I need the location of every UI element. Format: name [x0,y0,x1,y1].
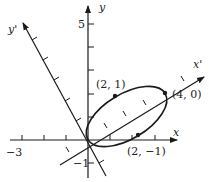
x-axis-label: x [173,126,180,139]
y-tick-label-5: 5 [78,18,85,31]
y-tick-label-neg1: −1 [73,157,89,170]
point-label-4-0: (4, 0) [172,88,202,101]
x-axis [10,135,177,140]
point-2-1 [113,94,117,98]
x-prime-axis-label: x' [193,58,202,71]
point-label-2-1: (2, 1) [96,78,126,91]
y-prime-axis [23,23,106,176]
point-4-0 [163,91,167,95]
y-prime-axis-label: y' [7,23,17,36]
point-label-2-neg1: (2, −1) [127,145,166,158]
point-2-neg1 [136,133,140,137]
x-tick-label-neg3: −3 [6,146,22,159]
rotated-ellipse-diagram: y 5 −1 −3 x x' y' (2, 1) (4, 0) (2, −1) [0,0,209,182]
y-axis-label: y [98,1,106,14]
